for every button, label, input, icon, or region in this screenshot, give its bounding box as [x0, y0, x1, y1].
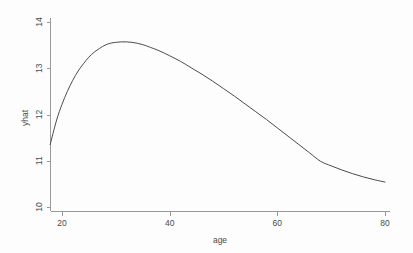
x-axis-ticks: 20406080	[57, 212, 390, 229]
y-tick-label: 11	[34, 156, 44, 165]
y-axis-title: yhat	[20, 109, 30, 126]
series-line-yhat	[50, 42, 385, 182]
y-tick-label: 12	[34, 110, 44, 120]
y-tick-label: 10	[34, 202, 44, 212]
x-tick-label: 20	[57, 218, 67, 228]
x-tick-label: 40	[165, 218, 175, 228]
x-axis-title: age	[213, 235, 227, 245]
x-tick-label: 80	[380, 218, 390, 228]
chart-canvas: 1011121314 20406080 yhat age	[0, 0, 413, 253]
y-tick-label: 13	[34, 63, 44, 73]
y-axis-ticks: 1011121314	[34, 17, 51, 212]
data-series-group	[50, 42, 385, 182]
x-tick-label: 60	[273, 218, 283, 228]
line-chart: 1011121314 20406080 yhat age	[0, 0, 413, 253]
y-tick-label: 14	[34, 17, 44, 27]
